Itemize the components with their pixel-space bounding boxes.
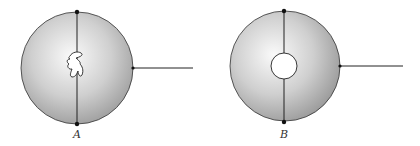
sphere-b-circular-cavity bbox=[271, 53, 297, 79]
sphere-b: B bbox=[230, 9, 403, 141]
sphere-a-wire-junction bbox=[131, 66, 134, 69]
sphere-b-wire-junction bbox=[338, 64, 341, 67]
sphere-b-label: B bbox=[279, 128, 288, 141]
sphere-a-label: A bbox=[72, 128, 81, 141]
sphere-a-bottom-dot bbox=[75, 122, 79, 126]
sphere-a: A bbox=[21, 10, 193, 141]
sphere-b-bottom-dot bbox=[282, 120, 286, 124]
sphere-b-top-dot bbox=[282, 9, 286, 13]
sphere-a-top-dot bbox=[75, 10, 79, 14]
diagram-canvas: A B bbox=[0, 0, 420, 146]
